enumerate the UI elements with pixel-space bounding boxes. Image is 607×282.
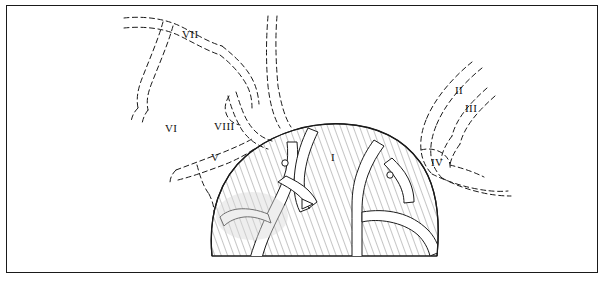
label-iii: III — [465, 103, 477, 114]
small-circle-right — [387, 172, 393, 178]
label-iv: IV — [431, 157, 443, 168]
label-viii: VIII — [214, 121, 235, 132]
anatomical-diagram — [0, 0, 607, 282]
figure-root: VII II III VI VIII V I IV — [0, 0, 607, 282]
label-vii: VII — [182, 29, 198, 40]
faint-shading-region — [216, 192, 288, 240]
small-circle-left — [282, 160, 288, 166]
label-vi: VI — [165, 123, 177, 134]
label-ii: II — [455, 85, 463, 96]
label-v: V — [211, 152, 219, 163]
label-i: I — [331, 152, 335, 163]
